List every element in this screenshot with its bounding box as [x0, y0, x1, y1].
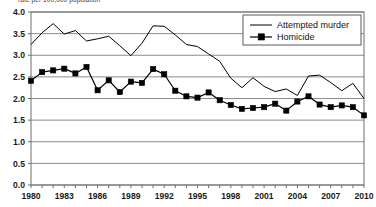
- y-axis-tick-label: 4.0: [13, 7, 25, 17]
- x-axis-tick-label: 1998: [221, 191, 240, 201]
- data-point-marker: [295, 99, 300, 104]
- data-point-marker: [206, 90, 211, 95]
- data-point-marker: [40, 70, 45, 75]
- x-axis-tick-label: 2007: [321, 191, 340, 201]
- y-axis-tick-label: 0.5: [13, 159, 25, 169]
- legend-label-attempted-murder: Attempted murder: [277, 20, 349, 30]
- series-line-homicide: [31, 67, 364, 115]
- data-point-marker: [317, 102, 322, 107]
- data-point-marker: [350, 105, 355, 110]
- data-point-marker: [228, 102, 233, 107]
- data-point-marker: [195, 95, 200, 100]
- x-axis-tick-label: 2004: [288, 191, 307, 201]
- legend-swatch-homicide-marker: [258, 34, 264, 40]
- y-axis-tick-label: 3.5: [13, 29, 25, 39]
- x-axis-tick-label: 2010: [354, 191, 373, 201]
- data-point-marker: [273, 101, 278, 106]
- data-point-marker: [106, 78, 111, 83]
- data-point-marker: [84, 64, 89, 69]
- data-point-marker: [139, 80, 144, 85]
- x-axis-tick-label: 1983: [55, 191, 74, 201]
- data-point-marker: [184, 94, 189, 99]
- legend-label-homicide: Homicide: [277, 32, 315, 42]
- data-point-marker: [361, 113, 366, 118]
- x-axis-tick-label: 2001: [255, 191, 274, 201]
- y-axis-tick-label: 1.5: [13, 115, 25, 125]
- data-point-marker: [95, 88, 100, 93]
- chart-svg: 4.03.53.02.52.01.51.00.50.01980198319861…: [0, 0, 376, 207]
- data-point-marker: [117, 89, 122, 94]
- data-point-marker: [239, 106, 244, 111]
- data-point-marker: [51, 68, 56, 73]
- x-axis-tick-label: 1992: [155, 191, 174, 201]
- y-axis-tick-label: 3.0: [13, 50, 25, 60]
- data-point-marker: [173, 88, 178, 93]
- y-axis-tick-label: 2.5: [13, 72, 25, 82]
- data-point-marker: [162, 72, 167, 77]
- data-point-marker: [328, 105, 333, 110]
- data-point-marker: [306, 94, 311, 99]
- data-point-marker: [128, 79, 133, 84]
- x-axis-tick-label: 1986: [88, 191, 107, 201]
- data-point-marker: [284, 108, 289, 113]
- data-point-marker: [262, 105, 267, 110]
- chart-container: rate per 100,000 population 4.03.53.02.5…: [0, 0, 376, 207]
- data-point-marker: [28, 78, 33, 83]
- x-axis-tick-label: 1980: [21, 191, 40, 201]
- y-axis-tick-label: 2.0: [13, 94, 25, 104]
- x-axis-tick-label: 1989: [121, 191, 140, 201]
- data-point-marker: [217, 98, 222, 103]
- data-point-marker: [250, 105, 255, 110]
- y-axis-tick-label: 1.0: [13, 137, 25, 147]
- data-point-marker: [151, 66, 156, 71]
- data-point-marker: [339, 103, 344, 108]
- data-point-marker: [62, 66, 67, 71]
- data-point-marker: [73, 71, 78, 76]
- x-axis-tick-label: 1995: [188, 191, 207, 201]
- y-axis-tick-label: 0.0: [13, 180, 25, 190]
